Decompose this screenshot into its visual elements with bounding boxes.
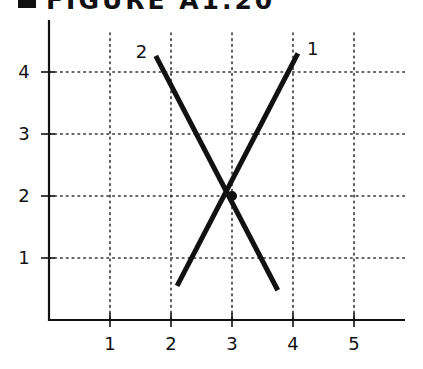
y-tick-label: 3: [18, 123, 29, 144]
y-tick-label: 4: [18, 61, 29, 82]
y-tick-label: 1: [18, 247, 29, 268]
intersection-point: [227, 191, 237, 201]
x-tick-label: 2: [165, 333, 176, 354]
series-line-1: [177, 53, 298, 286]
x-tick-label: 5: [348, 333, 359, 354]
x-tick-label: 3: [226, 333, 237, 354]
x-tick-label: 1: [104, 333, 115, 354]
series-label-1: 1: [307, 38, 318, 59]
series-line-2: [156, 56, 278, 290]
x-tick-label: 4: [287, 333, 298, 354]
y-tick-label: 2: [18, 185, 29, 206]
chart: 12341234512: [0, 0, 423, 369]
series-label-2: 2: [136, 41, 147, 62]
